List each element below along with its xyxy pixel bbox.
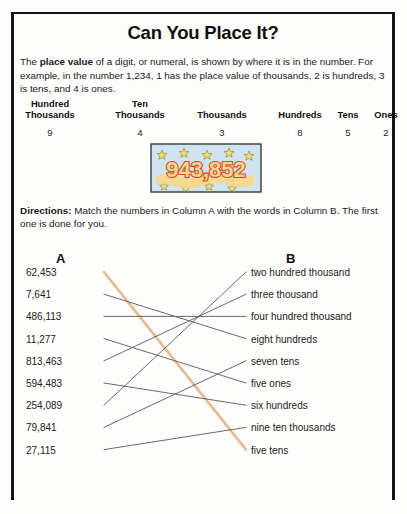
worksheet-page: Can You Place It? The place value of a d… [0,0,407,514]
column-b-word[interactable]: nine ten thousands [251,422,391,433]
column-a-number[interactable]: 79,841 [26,422,100,433]
place-value-digit-4: 5 [328,127,368,138]
page-border-left [11,12,14,500]
place-value-digit-row: 943852 [18,127,392,141]
match-line [104,383,246,405]
place-value-digit-0: 9 [30,127,70,138]
place-value-header-line: Thousands [177,110,267,121]
place-value-header-line: Hundred [5,99,95,110]
column-b-heading: B [286,251,295,266]
column-b-word[interactable]: six hundreds [251,400,391,411]
column-b-word[interactable]: three thousand [251,289,391,300]
column-b-word[interactable]: five ones [251,378,391,389]
place-value-header-row: HundredThousandsTenThousandsThousandsHun… [18,99,392,123]
match-line [104,294,246,361]
number-artwork: 943,852 [150,143,262,193]
column-a-number[interactable]: 27,115 [26,445,100,456]
match-line [104,339,246,383]
directions-text: Match the numbers in Column A with the w… [20,205,378,229]
artwork-number-text: 943,852 [166,157,246,182]
column-a-number[interactable]: 62,453 [26,267,100,278]
place-value-header-0: HundredThousands [5,99,95,121]
column-b-word[interactable]: seven tens [251,356,391,367]
place-value-digit-1: 4 [120,127,160,138]
column-b-word[interactable]: two hundred thousand [251,267,391,278]
page-border-right [392,12,395,500]
column-a-number[interactable]: 486,113 [26,311,100,322]
match-line [104,294,246,338]
match-line-example [104,272,246,450]
place-value-digit-2: 3 [202,127,242,138]
page-title: Can You Place It? [14,22,392,44]
column-a-number[interactable]: 11,277 [26,334,100,345]
column-b-word[interactable]: eight hundreds [251,334,391,345]
intro-bold-term: place value [40,56,93,67]
place-value-digit-5: 2 [366,127,406,138]
place-value-header-2: Thousands [177,99,267,121]
column-a-number[interactable]: 813,463 [26,356,100,367]
place-value-header-line: Ten [95,99,185,110]
intro-text-before: The [20,56,40,67]
column-b-word[interactable]: five tens [251,445,391,456]
page-border-top [11,12,395,14]
column-b-word[interactable]: four hundred thousand [251,311,391,322]
directions-label: Directions: [20,205,72,216]
column-a-number[interactable]: 7,641 [26,289,100,300]
place-value-header-1: TenThousands [95,99,185,121]
directions-paragraph: Directions: Match the numbers in Column … [20,204,392,231]
column-a-number[interactable]: 254,089 [26,400,100,411]
match-line [104,361,246,428]
place-value-header-line: Ones [341,110,407,121]
column-a-heading: A [56,251,65,266]
intro-paragraph: The place value of a digit, or numeral, … [20,55,392,96]
place-value-header-5: Ones [341,99,407,121]
match-line [104,427,246,449]
place-value-digit-3: 8 [280,127,320,138]
match-line [104,272,246,405]
place-value-header-line: Thousands [5,110,95,121]
place-value-header-line: Thousands [95,110,185,121]
column-a-number[interactable]: 594,483 [26,378,100,389]
